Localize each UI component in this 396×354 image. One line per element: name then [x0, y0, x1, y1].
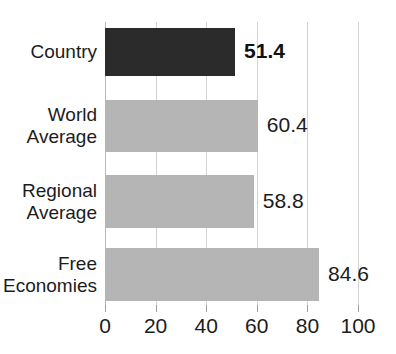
x-tick-label-0: 0 [99, 314, 111, 338]
category-label-2: World Average [0, 104, 97, 148]
x-tick-label-40: 40 [195, 314, 218, 338]
category-label-1: Country [0, 41, 97, 63]
category-label-4: Free Economies [0, 253, 97, 297]
bar-3 [105, 175, 254, 228]
tick-mark-100 [358, 305, 359, 312]
bar-1 [105, 28, 235, 76]
value-label-2: 60.4 [267, 113, 308, 137]
bar-2 [105, 100, 258, 152]
value-label-1: 51.4 [244, 39, 285, 63]
value-label-3: 58.8 [263, 189, 304, 213]
bar-4 [105, 248, 319, 301]
x-tick-label-20: 20 [144, 314, 167, 338]
x-tick-label-100: 100 [340, 314, 375, 338]
x-tick-label-80: 80 [296, 314, 319, 338]
tick-mark-40 [206, 305, 207, 312]
bar-chart: 020406080100 Country51.4World Average60.… [0, 0, 396, 354]
chart-title [0, 0, 396, 6]
value-label-4: 84.6 [328, 262, 369, 286]
tick-mark-60 [257, 305, 258, 312]
category-label-3: Regional Average [0, 180, 97, 224]
tick-mark-0 [105, 305, 106, 312]
tick-mark-20 [156, 305, 157, 312]
x-tick-label-60: 60 [245, 314, 268, 338]
tick-mark-80 [307, 305, 308, 312]
plot-area: 020406080100 Country51.4World Average60.… [105, 22, 358, 305]
